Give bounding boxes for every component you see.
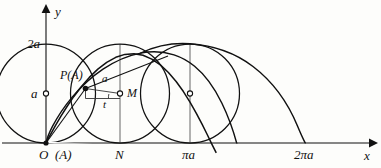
cycloid-right-branch bbox=[141, 44, 306, 144]
chord-from-origin bbox=[46, 89, 86, 144]
x-tick-label-point-N: N bbox=[115, 148, 124, 161]
angle-label: t bbox=[103, 99, 106, 110]
point-P-marker bbox=[83, 86, 89, 92]
x-tick-label-point-A: (A) bbox=[55, 148, 72, 161]
x-tick-label-pi-a: πa bbox=[182, 148, 195, 161]
cycloid-figure: y x 2a a O (A) N πa 2πa P(A) M a t bbox=[0, 0, 381, 168]
origin-marker bbox=[43, 140, 48, 145]
y-axis-label: y bbox=[55, 5, 61, 18]
center-first-circle-marker bbox=[43, 91, 48, 96]
radius-PM-line bbox=[86, 89, 121, 94]
generating-point-label: P(A) bbox=[60, 69, 83, 81]
y-axis-arrow-icon bbox=[42, 4, 51, 13]
point-M-marker bbox=[117, 91, 122, 96]
center-third-circle-marker bbox=[187, 91, 192, 96]
x-tick-label-two-pi-a: 2πa bbox=[294, 148, 314, 161]
x-axis-label: x bbox=[364, 149, 370, 162]
y-tick-label-a: a bbox=[31, 87, 38, 100]
radius-label: a bbox=[102, 73, 108, 84]
x-tick-label-origin: O bbox=[39, 148, 48, 161]
figure-canvas bbox=[0, 0, 381, 168]
x-axis-arrow-icon bbox=[369, 139, 378, 148]
center-point-label: M bbox=[127, 87, 137, 99]
cycloid-right-branch-group bbox=[141, 44, 306, 144]
y-tick-label-two-a: 2a bbox=[27, 37, 40, 50]
